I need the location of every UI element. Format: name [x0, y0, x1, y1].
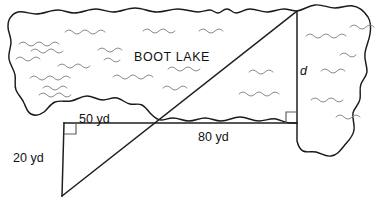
- left-vertical-leg-20yd: [62, 123, 64, 196]
- boot-lake-figure: BOOT LAKE 50 yd 80 yd 20 yd d: [0, 0, 389, 200]
- measurement-label-unknown-d: d: [300, 65, 307, 78]
- measurement-label-left-leg: 20 yd: [13, 152, 44, 165]
- measurement-label-bottom-leg: 80 yd: [198, 131, 229, 144]
- measurement-label-top-leg: 50 yd: [79, 113, 110, 126]
- diagram-canvas: [0, 0, 389, 200]
- right-angle-marker-left: [64, 123, 76, 134]
- lake-shape-group: [8, 5, 371, 156]
- lake-outline: [8, 5, 371, 156]
- lake-name-label: BOOT LAKE: [134, 51, 210, 64]
